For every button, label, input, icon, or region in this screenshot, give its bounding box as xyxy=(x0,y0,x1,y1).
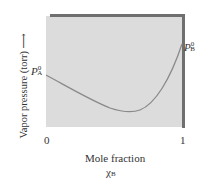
x-tick-0: 0 xyxy=(44,135,50,146)
pb0-label: P0B xyxy=(184,42,195,53)
y-axis-label: Vapor pressure (torr) ⟶ xyxy=(17,21,29,151)
x-axis-symbol: χB xyxy=(106,167,116,178)
x-axis-label: Mole fraction xyxy=(85,153,145,164)
x-tick-1: 1 xyxy=(180,135,186,146)
pa0-label: P0A xyxy=(31,66,42,77)
